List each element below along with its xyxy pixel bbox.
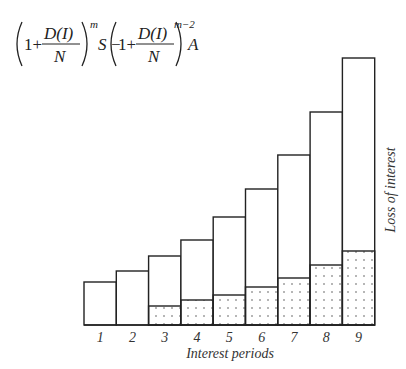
loss-segment-3 bbox=[149, 306, 181, 325]
loss-segment-5 bbox=[213, 295, 245, 325]
tick-label: 5 bbox=[226, 330, 233, 345]
tick-label: 8 bbox=[323, 330, 330, 345]
loss-segment-6 bbox=[246, 287, 278, 325]
tick-label: 4 bbox=[194, 330, 201, 345]
tick-label: 9 bbox=[355, 330, 362, 345]
loss-segment-9 bbox=[342, 251, 374, 325]
y-axis-label: Loss of interest bbox=[383, 146, 398, 233]
tick-label: 2 bbox=[129, 330, 136, 345]
loss-segment-7 bbox=[278, 278, 310, 325]
x-axis-label: Interest periods bbox=[185, 346, 274, 361]
bar-chart: 123456789 Interest periods Loss of inter… bbox=[0, 0, 406, 369]
tick-label: 6 bbox=[258, 330, 265, 345]
tick-label: 7 bbox=[290, 330, 298, 345]
bar-period-2 bbox=[116, 271, 148, 325]
loss-segment-4 bbox=[181, 300, 213, 325]
bar-period-1 bbox=[84, 282, 116, 325]
tick-label: 1 bbox=[97, 330, 104, 345]
loss-segment-8 bbox=[310, 265, 342, 325]
tick-label: 3 bbox=[160, 330, 168, 345]
